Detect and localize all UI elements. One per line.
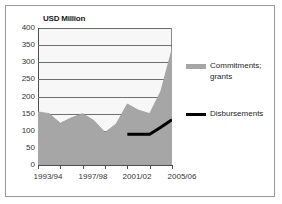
y-axis-tick-label: 150 <box>1 109 35 118</box>
x-axis-tick <box>127 165 128 169</box>
y-axis-tick-label: 0 <box>1 160 35 169</box>
legend-label-commitments: Commitments; grants <box>210 60 262 82</box>
y-axis-tick-label: 250 <box>1 74 35 83</box>
legend-swatch-line-icon <box>186 113 206 116</box>
x-axis-tick <box>83 165 84 169</box>
y-axis-labels: 400350300250200150100500 <box>0 0 35 204</box>
area-series-commitments <box>38 49 172 165</box>
x-axis-tick <box>172 165 173 169</box>
y-axis-tick-label: 50 <box>1 143 35 152</box>
chart-figure: USD Million 400350300250200150100500 199… <box>0 0 282 204</box>
x-axis-tick-label: 1993/94 <box>34 172 63 181</box>
x-axis-tick-label: 2005/06 <box>168 172 197 181</box>
legend-label-disbursements: Disbursements <box>210 108 263 119</box>
legend-item-commitments: Commitments; grants <box>186 60 278 82</box>
y-axis-tick-label: 200 <box>1 92 35 101</box>
y-axis-tick-label: 350 <box>1 40 35 49</box>
y-axis-tick-label: 100 <box>1 126 35 135</box>
x-axis-tick <box>60 165 61 169</box>
data-series-layer <box>38 28 172 165</box>
chart-legend: Commitments; grants Disbursements <box>186 60 278 82</box>
x-axis-tick <box>150 165 151 169</box>
x-axis-tick <box>38 165 39 169</box>
x-axis-tick-label: 2001/02 <box>123 172 152 181</box>
x-axis-tick <box>105 165 106 169</box>
x-axis-tick-label: 1997/98 <box>79 172 108 181</box>
legend-swatch-area-icon <box>186 64 206 69</box>
chart-title: USD Million <box>43 14 85 23</box>
y-axis-tick-label: 300 <box>1 57 35 66</box>
y-axis-tick-label: 400 <box>1 23 35 32</box>
legend-item-disbursements: Disbursements <box>186 108 263 119</box>
